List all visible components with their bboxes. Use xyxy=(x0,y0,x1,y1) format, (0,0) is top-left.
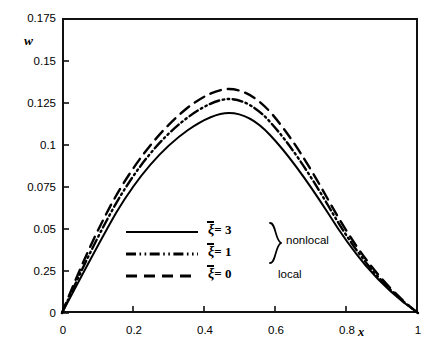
legend: ξ= 3 ξ= 1 ξ= 0 nonlocal local xyxy=(126,222,326,288)
xi-bar-symbol: ξ xyxy=(208,244,214,260)
legend-value: = 1 xyxy=(214,244,231,259)
legend-label-xi-0: ξ= 0 xyxy=(208,266,231,282)
plot-canvas xyxy=(0,0,443,354)
legend-value: = 3 xyxy=(214,222,231,237)
legend-line-sample-dash-dot-dot xyxy=(126,252,198,256)
xi-bar-symbol: ξ xyxy=(208,222,214,238)
legend-value: = 0 xyxy=(214,266,231,281)
xi-bar-symbol: ξ xyxy=(208,266,214,282)
legend-group-label-local: local xyxy=(278,268,302,280)
legend-line-sample-solid xyxy=(126,230,198,234)
legend-label-xi-3: ξ= 3 xyxy=(208,222,231,238)
legend-row-xi-1: ξ= 1 xyxy=(126,244,326,264)
nonlocal-group-brace xyxy=(268,222,282,264)
chart-figure: 0 0.25 0.05 0.075 0.1 0.125 0.15 0.175 0… xyxy=(0,0,443,354)
legend-line-sample-dashed xyxy=(126,274,198,278)
legend-label-xi-1: ξ= 1 xyxy=(208,244,231,260)
legend-group-label-nonlocal: nonlocal xyxy=(286,234,329,246)
